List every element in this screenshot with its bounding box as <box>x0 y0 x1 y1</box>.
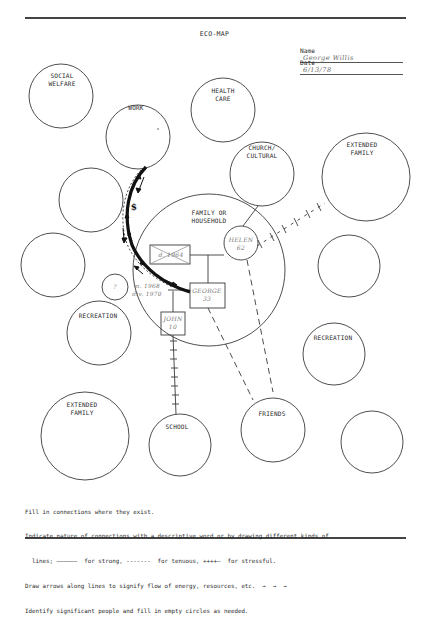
work-george-strong-connection <box>127 167 190 292</box>
extended-family-right-label: EXTENDED FAMILY <box>347 141 378 157</box>
instructions: Fill in connections where they exist. In… <box>25 491 329 619</box>
church-cultural-label: CHURCH/ CULTURAL <box>247 144 278 160</box>
instruction-line-2: Indicate nature of connections with a de… <box>25 532 329 540</box>
health-care-label: HEALTH CARE <box>211 87 234 103</box>
instruction-line-1: Fill in connections where they exist. <box>25 508 329 516</box>
friends-label: FRIENDS <box>258 410 285 418</box>
extended-family-left-label: EXTENDED FAMILY <box>67 401 98 417</box>
marriage-note: m. 1968 div. 1970 <box>132 283 161 298</box>
recreation-right-circle[interactable] <box>303 323 365 385</box>
helen-extended-family-stressful-connection <box>257 203 325 246</box>
work-label: WORK <box>128 104 143 112</box>
instruction-line-4: Draw arrows along lines to signify flow … <box>25 582 329 590</box>
unknown-small-label: ? <box>113 283 117 291</box>
recreation-left-circle[interactable] <box>67 301 131 365</box>
empty-circle-left-1[interactable] <box>59 168 123 232</box>
school-label: SCHOOL <box>165 423 188 431</box>
george-friends-tenuous-connection <box>208 308 253 400</box>
empty-circle-right-1[interactable] <box>318 235 380 297</box>
empty-circle-bottom-right[interactable] <box>341 411 403 473</box>
instruction-line-3: lines; —————— for strong, ------- for te… <box>25 557 329 565</box>
recreation-left-label: RECREATION <box>79 312 118 320</box>
instruction-line-5: Identify significant people and fill in … <box>25 607 329 615</box>
recreation-right-label: RECREATION <box>314 334 353 342</box>
family-household-label: FAMILY OR HOUSEHOLD <box>192 209 227 225</box>
john-school-stressful-connection <box>173 335 176 414</box>
john-label: JOHN 10 <box>163 315 182 331</box>
work-circle[interactable] <box>106 105 170 169</box>
george-label: GEORGE 33 <box>192 287 222 303</box>
helen-label: HELEN 62 <box>229 236 254 252</box>
ex-spouse-label: d. 1964 <box>158 251 183 259</box>
friends-circle[interactable] <box>241 398 305 462</box>
work-money-symbol: $ <box>131 203 138 211</box>
empty-circle-left-2[interactable] <box>21 233 85 297</box>
social-welfare-label: SOCIAL WELFARE <box>48 72 75 88</box>
church-helen-connection <box>243 206 258 226</box>
